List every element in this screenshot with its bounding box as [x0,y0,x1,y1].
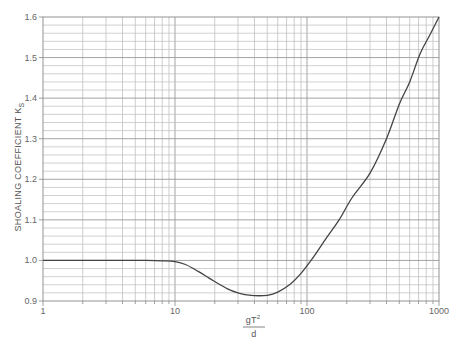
y-tick-label: 1.0 [24,255,37,265]
x-axis-title-numerator: gT [246,315,257,325]
x-tick-label: 1 [40,306,45,316]
y-tick-label: 1.3 [24,134,37,144]
y-tick-label: 1.2 [24,174,37,184]
y-tick-label: 1.1 [24,215,37,225]
x-axis-title-denominator: d [251,329,256,339]
ks-curve [43,17,439,296]
svg-text:gT2: gT2 [246,314,261,325]
x-tick-label: 10 [170,306,180,316]
y-tick-label: 1.5 [24,53,37,63]
x-axis-ticks: 1101001000 [40,301,449,316]
shoaling-coefficient-chart: 0.91.01.11.21.31.41.51.6 1101001000 SHOA… [0,0,461,347]
plot-frame [43,17,439,301]
y-axis-ticks: 0.91.01.11.21.31.41.51.6 [24,12,43,306]
x-tick-label: 1000 [429,306,449,316]
y-tick-label: 1.6 [24,12,37,22]
grid [43,17,439,301]
x-tick-label: 100 [299,306,314,316]
y-tick-label: 0.9 [24,296,37,306]
y-axis-title: SHOALING COEFFICIENT KS [13,103,25,232]
x-axis-title: gT2 d [243,314,265,339]
y-tick-label: 1.4 [24,93,37,103]
